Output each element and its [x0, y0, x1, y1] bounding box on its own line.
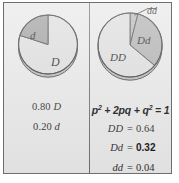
figure-panel-frame: d D 0.80 D 0.20 d — [3, 2, 172, 174]
allele-frequency-symbol-d: d — [55, 121, 60, 132]
allele-frequency-list: 0.80 D 0.20 d — [4, 101, 89, 132]
hardy-weinberg-equation: p2 + 2pq + q2 = 1 — [90, 104, 171, 116]
genotype-name-dd: dd — [101, 162, 126, 173]
genotype-equals-DD: = — [126, 123, 134, 134]
pie-slice-label-DD: DD — [110, 51, 126, 63]
genotype-equals-dd: = — [126, 162, 134, 173]
allele-frequency-symbol-D: D — [53, 101, 61, 112]
pie-slice-label-D: D — [51, 55, 60, 70]
genotype-name-Dd: Dd — [101, 142, 126, 153]
genotype-row-dd: dd = 0.04 — [90, 162, 171, 173]
allele-frequency-row-D: 0.80 D — [4, 101, 89, 112]
allele-pie-chart — [17, 9, 79, 81]
genotype-frequency-list: DD = 0.64 Dd = 0.32 dd = 0.04 — [90, 123, 171, 174]
equation-equals-one: = 1 — [152, 104, 169, 116]
genotype-value-dd: 0.04 — [134, 162, 160, 173]
allele-frequency-value-d: 0.20 — [33, 121, 52, 132]
equation-plus-1: + — [102, 104, 113, 116]
genotype-equals-Dd: = — [126, 142, 134, 153]
equation-term-2pq: 2pq — [113, 104, 131, 116]
allele-frequency-value-D: 0.80 — [32, 101, 51, 112]
genotype-frequency-panel: DD Dd dd p2 + 2pq + q2 = 1 DD = 0.64 Dd … — [90, 3, 171, 173]
genotype-name-DD: DD — [101, 123, 126, 134]
pie-slice-label-Dd: Dd — [137, 34, 150, 46]
genotype-row-DD: DD = 0.64 — [90, 123, 171, 134]
genotype-row-Dd: Dd = 0.32 — [90, 142, 171, 154]
allele-frequency-row-d: 0.20 d — [4, 121, 89, 132]
genotype-value-DD: 0.64 — [134, 123, 160, 134]
allele-frequency-panel: d D 0.80 D 0.20 d — [4, 3, 89, 173]
genotype-value-Dd: 0.32 — [134, 143, 160, 154]
figure-root: d D 0.80 D 0.20 d — [0, 0, 179, 183]
equation-plus-2: + — [131, 104, 142, 116]
genotype-pie-chart — [96, 9, 166, 83]
pie-slice-label-dd: dd — [147, 5, 157, 16]
pie-slice-label-d: d — [30, 29, 36, 41]
